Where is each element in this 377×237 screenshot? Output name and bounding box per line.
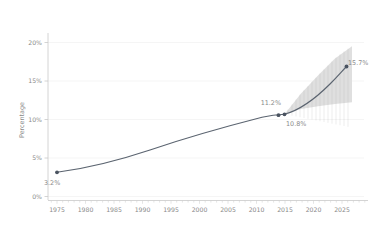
annotation-last-historical-point: 10.8% bbox=[286, 120, 306, 128]
marker-2014[interactable] bbox=[277, 113, 281, 117]
x-tick-label-2025: 2025 bbox=[334, 206, 350, 213]
annotation-start-point: 3.2% bbox=[44, 179, 60, 187]
marker-1975[interactable] bbox=[55, 170, 59, 174]
y-tick-label-5: 5% bbox=[32, 154, 42, 161]
x-tick-label-1975: 1975 bbox=[49, 206, 65, 213]
y-axis-title: Percentage bbox=[18, 102, 26, 138]
x-tick-label-2010: 2010 bbox=[249, 206, 265, 213]
y-tick-label-10: 10% bbox=[28, 116, 42, 123]
marker-2015[interactable] bbox=[283, 112, 287, 116]
x-tick-label-2000: 2000 bbox=[192, 206, 208, 213]
chart-background bbox=[0, 0, 377, 237]
y-tick-label-15: 15% bbox=[28, 77, 42, 84]
chart-container: 20% 15% 10% 5% 0% Percentage bbox=[0, 0, 377, 237]
x-tick-label-2005: 2005 bbox=[220, 206, 236, 213]
y-tick-label-20: 20% bbox=[28, 39, 42, 46]
x-tick-label-1995: 1995 bbox=[163, 206, 179, 213]
annotation-projection-end-point: 15.7% bbox=[348, 59, 368, 67]
x-tick-label-2020: 2020 bbox=[306, 206, 322, 213]
x-tick-label-2015: 2015 bbox=[277, 206, 293, 213]
chart-canvas: 20% 15% 10% 5% 0% Percentage bbox=[0, 0, 377, 237]
x-tick-label-1990: 1990 bbox=[135, 206, 151, 213]
annotation-projection-start-point: 11.2% bbox=[261, 99, 281, 107]
x-tick-label-1980: 1980 bbox=[78, 206, 94, 213]
x-tick-label-1985: 1985 bbox=[106, 206, 122, 213]
y-tick-label-0: 0% bbox=[32, 193, 42, 200]
